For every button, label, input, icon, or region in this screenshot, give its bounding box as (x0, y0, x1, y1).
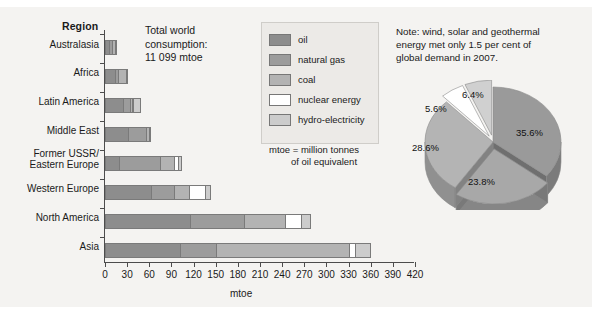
bar-segment-oil (105, 185, 151, 200)
bar-row (105, 243, 371, 258)
category-label-former-ussr: Former USSR/ Eastern Europe (0, 148, 99, 170)
bar-segment-natural-gas (119, 156, 160, 171)
x-tick-label: 420 (400, 269, 430, 280)
legend-swatch-hydro-electricity (269, 114, 291, 126)
x-tick (238, 262, 239, 267)
total-consumption-note: Total world consumption: 11 099 mtoe (145, 24, 207, 65)
x-tick (349, 262, 350, 267)
bar-segment-hydro-electricity (205, 185, 211, 200)
bar-segment-oil (105, 243, 180, 258)
bar-segment-coal (174, 185, 189, 200)
legend-swatch-oil (269, 34, 291, 46)
bar-segment-natural-gas (123, 98, 130, 113)
category-label-north-america: North America (0, 212, 99, 223)
y-tick (100, 34, 105, 35)
legend-item-hydro-electricity: hydro-electricity (269, 110, 372, 129)
wind-solar-note: Note: wind, solar and geothermal energy … (396, 25, 581, 64)
category-label-latin-america: Latin America (0, 96, 99, 107)
x-tick (260, 262, 261, 267)
category-label-australasia: Australasia (0, 39, 99, 50)
x-tick (393, 262, 394, 267)
legend-item-oil: oil (269, 30, 372, 49)
category-label-western-europe: Western Europe (0, 183, 99, 194)
legend-swatch-nuclear-energy (269, 94, 291, 106)
bar-segment-oil (105, 69, 115, 84)
bar-segment-coal (160, 156, 174, 171)
x-tick (304, 262, 305, 267)
pie-label-2: 28.6% (412, 142, 439, 153)
bar-segment-oil (105, 156, 119, 171)
pie-label-3: 5.6% (425, 103, 447, 114)
bar-segment-hydro-electricity (149, 127, 151, 142)
legend-label-oil: oil (298, 34, 308, 45)
bar-row (105, 185, 211, 200)
legend-item-nuclear-energy: nuclear energy (269, 90, 372, 109)
bar-segment-oil (105, 98, 123, 113)
bar-segment-hydro-electricity (301, 214, 311, 229)
y-tick (100, 121, 105, 122)
legend-label-coal: coal (298, 74, 315, 85)
legend-item-coal: coal (269, 70, 372, 89)
bar-segment-oil (105, 127, 128, 142)
bar-segment-nuclear-energy (285, 214, 301, 229)
legend-label-hydro-electricity: hydro-electricity (298, 114, 365, 125)
bar-row (105, 214, 311, 229)
pie-label-4: 6.4% (462, 89, 484, 100)
legend-footnote: mtoe = million tonnes of oil equivalent (269, 132, 372, 180)
y-tick (100, 92, 105, 93)
x-tick (171, 262, 172, 267)
bar-row (105, 40, 117, 55)
y-tick (100, 63, 105, 64)
bar-segment-coal (244, 214, 285, 229)
x-tick (371, 262, 372, 267)
legend-footnote-line2: of oil equivalent (269, 156, 372, 168)
bar-segment-oil (105, 214, 190, 229)
pie-label-0: 35.6% (516, 127, 543, 138)
legend-swatch-natural-gas (269, 54, 291, 66)
x-tick (282, 262, 283, 267)
x-tick (216, 262, 217, 267)
y-tick (100, 179, 105, 180)
bar-row (105, 156, 182, 171)
category-label-middle-east: Middle East (0, 125, 99, 136)
legend-label-nuclear-energy: nuclear energy (298, 94, 361, 105)
bar-row (105, 127, 151, 142)
x-tick (326, 262, 327, 267)
x-tick (105, 262, 106, 267)
x-tick (149, 262, 150, 267)
bar-segment-hydro-electricity (126, 69, 128, 84)
bar-segment-hydro-electricity (178, 156, 182, 171)
category-label-africa: Africa (0, 67, 99, 78)
bar-segment-natural-gas (128, 127, 146, 142)
pie-chart: 35.6% 23.8% 28.6% 5.6% 6.4% (398, 80, 588, 210)
bar-segment-natural-gas (190, 214, 245, 229)
legend: oil natural gas coal nuclear energy hydr… (261, 22, 379, 144)
bar-segment-hydro-electricity (115, 40, 117, 55)
x-axis-line (104, 262, 414, 263)
x-tick (415, 262, 416, 267)
category-label-asia: Asia (0, 241, 99, 252)
region-axis-title: Region (62, 20, 98, 32)
y-tick (100, 150, 105, 151)
x-tick (127, 262, 128, 267)
energy-consumption-figure: Region Australasia Africa Latin America … (0, 0, 592, 316)
legend-item-natural-gas: natural gas (269, 50, 372, 69)
x-tick (194, 262, 195, 267)
bar-segment-hydro-electricity (355, 243, 371, 258)
y-tick (100, 208, 105, 209)
bar-segment-natural-gas (151, 185, 175, 200)
bar-segment-coal (216, 243, 349, 258)
bar-segment-natural-gas (180, 243, 216, 258)
y-tick (100, 237, 105, 238)
pie-label-1: 23.8% (468, 176, 495, 187)
bar-row (105, 98, 141, 113)
bar-segment-hydro-electricity (133, 98, 140, 113)
bar-segment-coal (118, 69, 125, 84)
x-axis-title: mtoe (230, 288, 252, 299)
bar-row (105, 69, 128, 84)
legend-footnote-line1: mtoe = million tonnes (269, 144, 359, 155)
bar-segment-nuclear-energy (189, 185, 205, 200)
legend-swatch-coal (269, 74, 291, 86)
legend-label-natural-gas: natural gas (298, 54, 345, 65)
